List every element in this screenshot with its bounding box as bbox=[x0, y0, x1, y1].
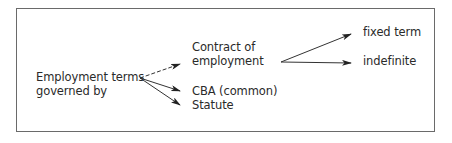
arrow-to-statute bbox=[140, 78, 180, 105]
diagram-arrows bbox=[0, 0, 452, 143]
arrow-to-cba bbox=[140, 78, 180, 91]
arrow-to-indefinite bbox=[281, 62, 351, 63]
arrow-to-fixed-term bbox=[281, 34, 351, 62]
arrow-to-contract bbox=[140, 64, 180, 78]
